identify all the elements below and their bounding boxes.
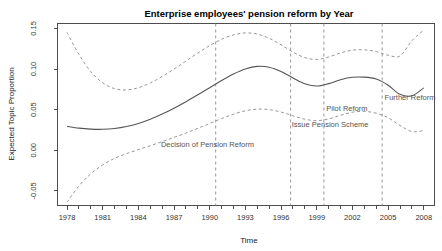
chart-container: Enterprise employees' pension reform by … — [0, 0, 442, 251]
x-tick-label: 1984 — [130, 213, 147, 222]
y-tick-label: 0.05 — [29, 102, 38, 117]
x-tick-label: 1987 — [166, 213, 183, 222]
event-marker-label: Decision of Pension Reform — [161, 140, 254, 149]
event-marker-label: Pilot Reform — [326, 104, 367, 113]
event-marker-label: Issue Pension Scheme — [292, 120, 369, 129]
y-tick-label: 0.00 — [29, 143, 38, 158]
x-tick-label: 2002 — [344, 213, 361, 222]
x-tick-label: 1993 — [237, 213, 254, 222]
event-marker-label: Further Reform — [385, 93, 436, 102]
x-tick-label: 1981 — [94, 213, 111, 222]
chart-title: Enterprise employees' pension reform by … — [144, 8, 353, 19]
x-axis-title: Time — [240, 236, 258, 245]
x-tick-label: 1996 — [273, 213, 290, 222]
pension-reform-line-chart: Enterprise employees' pension reform by … — [0, 0, 442, 251]
x-tick-label: 2008 — [415, 213, 432, 222]
x-tick-label: 2005 — [380, 213, 397, 222]
y-axis-title: Expected Topic Proportion — [7, 67, 16, 160]
x-tick-label: 1978 — [59, 213, 76, 222]
y-tick-label: 0.15 — [29, 21, 38, 36]
y-tick-label: 0.10 — [29, 62, 38, 77]
y-tick-label: -0.05 — [29, 182, 38, 199]
x-tick-label: 1990 — [201, 213, 218, 222]
x-tick-label: 1999 — [308, 213, 325, 222]
